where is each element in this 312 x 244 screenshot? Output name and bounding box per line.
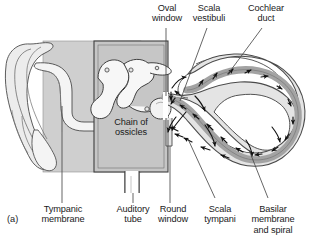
label-round-window: Round window bbox=[150, 204, 196, 225]
label-basilar-membrane: Basilar membrane and spiral bbox=[243, 204, 303, 235]
ear-anatomy-figure: Oval window Scala vestibuli Cochlear duc… bbox=[0, 0, 312, 244]
cochlea-spiral bbox=[163, 54, 305, 166]
label-scala-tympani: Scala tympani bbox=[196, 204, 244, 225]
panel-label: (a) bbox=[7, 214, 18, 224]
label-scala-vestibuli: Scala vestibuli bbox=[182, 3, 236, 24]
round-window bbox=[166, 118, 172, 146]
label-cochlear-duct: Cochlear duct bbox=[238, 3, 294, 24]
label-chain-of-ossicles: Chain of ossicles bbox=[100, 117, 162, 138]
label-tympanic-membrane: Tympanic membrane bbox=[33, 204, 93, 225]
